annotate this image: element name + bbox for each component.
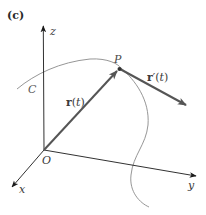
paren-close: ) xyxy=(81,96,85,109)
curve-c-label: C xyxy=(28,84,36,95)
x-axis-label: x xyxy=(19,184,25,195)
position-vector-label: r(t) xyxy=(66,97,85,108)
curve-c xyxy=(17,59,149,207)
y-axis-label: y xyxy=(188,180,194,191)
diagram-canvas xyxy=(0,0,206,215)
paren-close: ) xyxy=(164,71,168,84)
point-p-label: P xyxy=(114,54,121,65)
panel-label: (c) xyxy=(7,10,24,21)
z-axis-label: z xyxy=(50,26,56,37)
z-axis xyxy=(43,26,44,150)
origin-label: O xyxy=(42,155,51,166)
position-vector-r xyxy=(44,71,117,150)
y-axis xyxy=(44,150,196,176)
x-axis xyxy=(12,150,44,187)
point-p-marker xyxy=(118,67,122,71)
tangent-vector-label: r′(t) xyxy=(147,72,168,83)
vector-function-diagram: (c) z C P r(t) r′(t) O x y xyxy=(0,0,206,215)
